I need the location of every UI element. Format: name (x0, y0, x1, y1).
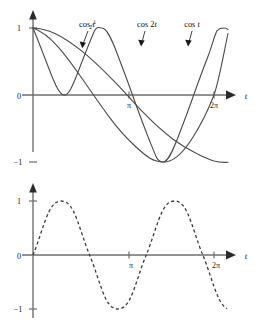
top-xtick-label-pi: π (127, 101, 131, 110)
top-chart-svg: 1 0 −1 π 2π t cos 1∕2t cos 2t (0, 0, 258, 170)
annotation-cos-t-arrowhead (185, 40, 192, 47)
bottom-x-axis-arrowhead (226, 251, 236, 260)
annotation-cos-half-t-pointer (83, 31, 88, 44)
top-ytick-label-minus1: −1 (14, 158, 23, 167)
top-ytick-label-0: 0 (17, 92, 21, 101)
annotation-cos-2t-label: cos 2t (137, 20, 157, 29)
bottom-xtick-label-pi: π (129, 261, 133, 270)
top-x-axis-label: t (245, 91, 248, 101)
annotation-cos-t-label: cos t (184, 20, 200, 29)
ann-2t-prefix: cos 2 (137, 20, 154, 29)
bottom-xtick-label-2pi: 2π (212, 261, 220, 270)
ann-2t-var: t (155, 20, 158, 29)
bottom-ytick-label-0: 0 (17, 252, 21, 261)
bottom-x-axis-label: t (245, 251, 248, 261)
chart-panel-bottom: 1 0 −1 π 2π t (0, 170, 258, 336)
annotation-cos-2t: cos 2t (137, 20, 157, 46)
bottom-chart-svg: 1 0 −1 π 2π t (0, 170, 258, 336)
annotation-cos-t: cos t (184, 20, 200, 46)
annotation-cos-2t-arrowhead (138, 40, 145, 47)
bottom-y-axis-arrowhead (29, 183, 37, 193)
top-x-axis-arrowhead (226, 91, 236, 100)
ann-t-var: t (197, 20, 200, 29)
bottom-ytick-label-1: 1 (17, 197, 21, 206)
annotation-cos-half-t-arrowhead (80, 42, 86, 49)
top-y-axis-arrowhead (29, 10, 37, 20)
top-ytick-label-1: 1 (17, 24, 21, 33)
chart-panel-top: 1 0 −1 π 2π t cos 1∕2t cos 2t (0, 0, 258, 170)
top-xtick-label-2pi: 2π (210, 101, 218, 110)
annotation-cos-half-t-label: cos 1∕2t (79, 19, 96, 30)
math-figure: 1 0 −1 π 2π t cos 1∕2t cos 2t (0, 0, 258, 336)
bottom-ytick-label-minus1: −1 (14, 305, 23, 314)
ann-t-prefix: cos (184, 20, 197, 29)
